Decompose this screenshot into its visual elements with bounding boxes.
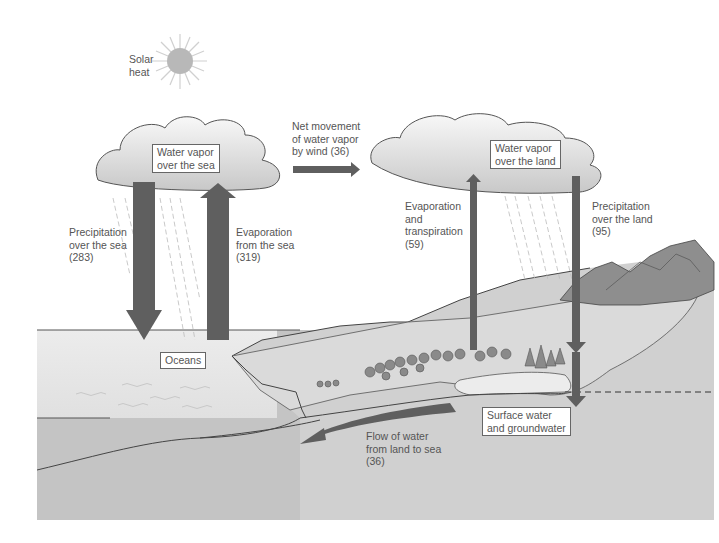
box-water-vapor-land: Water vapor over the land [490, 140, 561, 169]
arrow-evaporation-sea [200, 183, 236, 340]
label-runoff: Flow of water from land to sea (36) [366, 430, 441, 468]
label-precipitation-land: Precipitation over the land (95) [592, 200, 653, 238]
cloud-over-land [371, 114, 601, 194]
ocean-surface [37, 330, 277, 418]
label-evapotranspiration: Evaporation and transpiration (59) [405, 200, 463, 250]
arrow-wind [293, 162, 360, 177]
box-water-vapor-sea: Water vapor over the sea [152, 144, 220, 173]
box-oceans: Oceans [160, 352, 206, 369]
diagram-graphics [0, 0, 719, 543]
label-wind-movement: Net movement of water vapor by wind (36) [292, 120, 360, 158]
sun-icon [152, 34, 207, 89]
label-precipitation-sea: Precipitation over the sea (283) [69, 226, 127, 264]
box-surface-groundwater: Surface water and groundwater [482, 407, 571, 436]
label-evaporation-sea: Evaporation from the sea (319) [236, 226, 294, 264]
solar-heat-label: Solar heat [129, 53, 154, 78]
water-cycle-diagram: Solar heat Water vapor over the sea Wate… [0, 0, 719, 543]
rain-over-land [505, 196, 572, 280]
arrow-precipitation-sea [126, 182, 162, 340]
